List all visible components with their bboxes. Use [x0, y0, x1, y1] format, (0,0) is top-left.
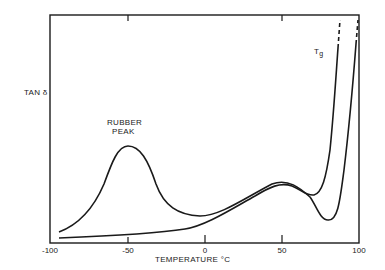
y-axis-label: TAN δ [24, 88, 48, 97]
x-tick-minus100: -100 [42, 246, 58, 255]
series-rubber-modified [59, 44, 356, 232]
tg-label: Tg [314, 47, 323, 56]
x-tick-50: 50 [278, 246, 287, 255]
series-rubber-dashed [356, 20, 358, 44]
plot-frame [50, 15, 359, 243]
series-unmodified [59, 48, 338, 238]
chart-canvas [0, 0, 385, 270]
x-tick-0: 0 [203, 246, 207, 255]
x-tick-minus50: -50 [122, 246, 134, 255]
tg-label-sub: g [319, 50, 323, 57]
series-unmodified-dashed [338, 20, 340, 48]
x-axis-ticks [128, 235, 282, 243]
x-axis-label: TEMPERATURE °C [155, 255, 230, 264]
x-tick-100: 100 [352, 246, 365, 255]
x-axis-top-ticks [128, 15, 282, 21]
rubber-peak-label-line1: RUBBER [107, 118, 142, 127]
rubber-peak-label-line2: PEAK [112, 127, 135, 136]
